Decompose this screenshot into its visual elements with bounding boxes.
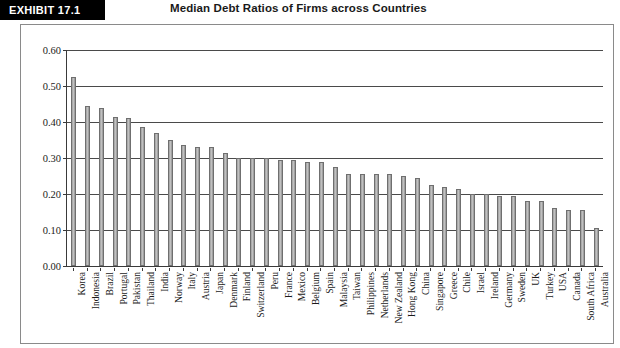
x-axis-tick: [416, 268, 417, 271]
x-axis-label: Brazil: [104, 272, 115, 295]
exhibit-title: Median Debt Ratios of Firms across Count…: [170, 2, 427, 14]
y-axis-tick-label: 0.60: [43, 45, 61, 56]
x-axis-tick: [513, 268, 514, 271]
x-axis-label: New Zealand: [393, 272, 404, 323]
x-axis-label: Philippines: [365, 272, 376, 315]
chart-frame: 0.000.100.200.300.400.500.60 KoreaIndone…: [20, 24, 614, 344]
x-axis-tick: [87, 268, 88, 271]
x-axis-label: Korea: [76, 272, 87, 295]
x-axis-tick: [155, 268, 156, 271]
x-axis-label: France: [283, 272, 294, 298]
bar: [305, 162, 310, 266]
bar: [511, 196, 516, 266]
x-axis-tick: [100, 268, 101, 271]
y-axis-tick-label: 0.50: [43, 81, 61, 92]
x-axis-tick: [348, 268, 349, 271]
x-axis-tick: [568, 268, 569, 271]
bar: [484, 194, 489, 266]
exhibit-tag: EXHIBIT 17.1: [0, 0, 105, 20]
x-axis-label: Portugal: [118, 272, 129, 305]
bar: [333, 167, 338, 266]
x-axis-labels: KoreaIndonesiaBrazilPortugalPakistanThai…: [66, 268, 602, 342]
x-axis-label: Pakistan: [131, 272, 142, 305]
bar: [181, 145, 186, 266]
bar: [346, 174, 351, 266]
bar: [566, 210, 571, 266]
bar: [113, 117, 118, 266]
bar: [552, 208, 557, 266]
x-axis-label: China: [420, 272, 431, 295]
x-axis-label: Finland: [241, 272, 252, 301]
x-axis-tick: [334, 268, 335, 271]
x-axis-tick: [526, 268, 527, 271]
bar: [387, 174, 392, 266]
bar: [360, 174, 365, 266]
x-axis-tick: [142, 268, 143, 271]
x-axis-label: Malaysia: [338, 272, 349, 307]
x-axis-tick: [458, 268, 459, 271]
y-axis-tick-label: 0.10: [43, 225, 61, 236]
bar: [470, 194, 475, 266]
x-axis-tick: [430, 268, 431, 271]
y-axis-tick-label: 0.40: [43, 117, 61, 128]
bar: [71, 77, 76, 266]
bar-series: [67, 50, 603, 266]
x-axis-label: Turkey: [544, 272, 555, 299]
x-axis-label: Greece: [448, 272, 459, 299]
x-axis-tick: [389, 268, 390, 271]
x-axis-label: Thailand: [145, 272, 156, 306]
x-axis-label: Peru: [269, 272, 280, 290]
bar: [99, 108, 104, 266]
x-axis-label: Japan: [214, 272, 225, 294]
x-axis-label: Austria: [200, 272, 211, 300]
bar: [401, 176, 406, 266]
bar: [236, 158, 241, 266]
bar: [85, 106, 90, 266]
x-axis-label: Israel: [475, 272, 486, 293]
x-axis-tick: [293, 268, 294, 271]
x-axis-tick: [320, 268, 321, 271]
x-axis-tick: [169, 268, 170, 271]
x-axis-tick: [197, 268, 198, 271]
bar: [250, 158, 255, 266]
bar: [429, 185, 434, 266]
x-axis-tick: [581, 268, 582, 271]
plot-wrapper: 0.000.100.200.300.400.500.60 KoreaIndone…: [21, 25, 615, 345]
bar: [278, 160, 283, 266]
x-axis-label: Belgium: [310, 272, 321, 305]
bar: [264, 158, 269, 266]
bar: [319, 162, 324, 266]
x-axis-label: Hong Kong: [406, 272, 417, 317]
x-axis-label: Italy: [186, 272, 197, 290]
y-axis-tick: [63, 266, 67, 267]
x-axis-tick: [361, 268, 362, 271]
bar: [195, 147, 200, 266]
x-axis-tick: [485, 268, 486, 271]
x-axis-label: Chile: [461, 272, 472, 293]
x-axis-tick: [252, 268, 253, 271]
x-axis-label: Sweden: [516, 272, 527, 302]
x-axis-tick: [499, 268, 500, 271]
bar: [140, 127, 145, 266]
x-axis-tick: [554, 268, 555, 271]
x-axis-label: South Africa: [585, 272, 596, 321]
bar: [525, 201, 530, 266]
x-axis-label: India: [159, 272, 170, 292]
x-axis-label: Singapore: [434, 272, 445, 311]
x-axis-tick: [265, 268, 266, 271]
y-axis-tick-label: 0.20: [43, 189, 61, 200]
x-axis-tick: [540, 268, 541, 271]
bar: [168, 140, 173, 266]
exhibit-header: EXHIBIT 17.1 Median Debt Ratios of Firms…: [0, 0, 620, 20]
bar: [223, 153, 228, 266]
x-axis-tick: [238, 268, 239, 271]
x-axis-label: Netherlands: [379, 272, 390, 318]
x-axis-label: Mexico: [296, 272, 307, 301]
x-axis-label: Switzerland: [255, 272, 266, 318]
y-axis-tick-label: 0.30: [43, 153, 61, 164]
x-axis-tick: [128, 268, 129, 271]
y-axis-tick-label: 0.00: [43, 261, 61, 272]
bar: [456, 189, 461, 266]
bar: [442, 187, 447, 266]
bar: [580, 210, 585, 266]
